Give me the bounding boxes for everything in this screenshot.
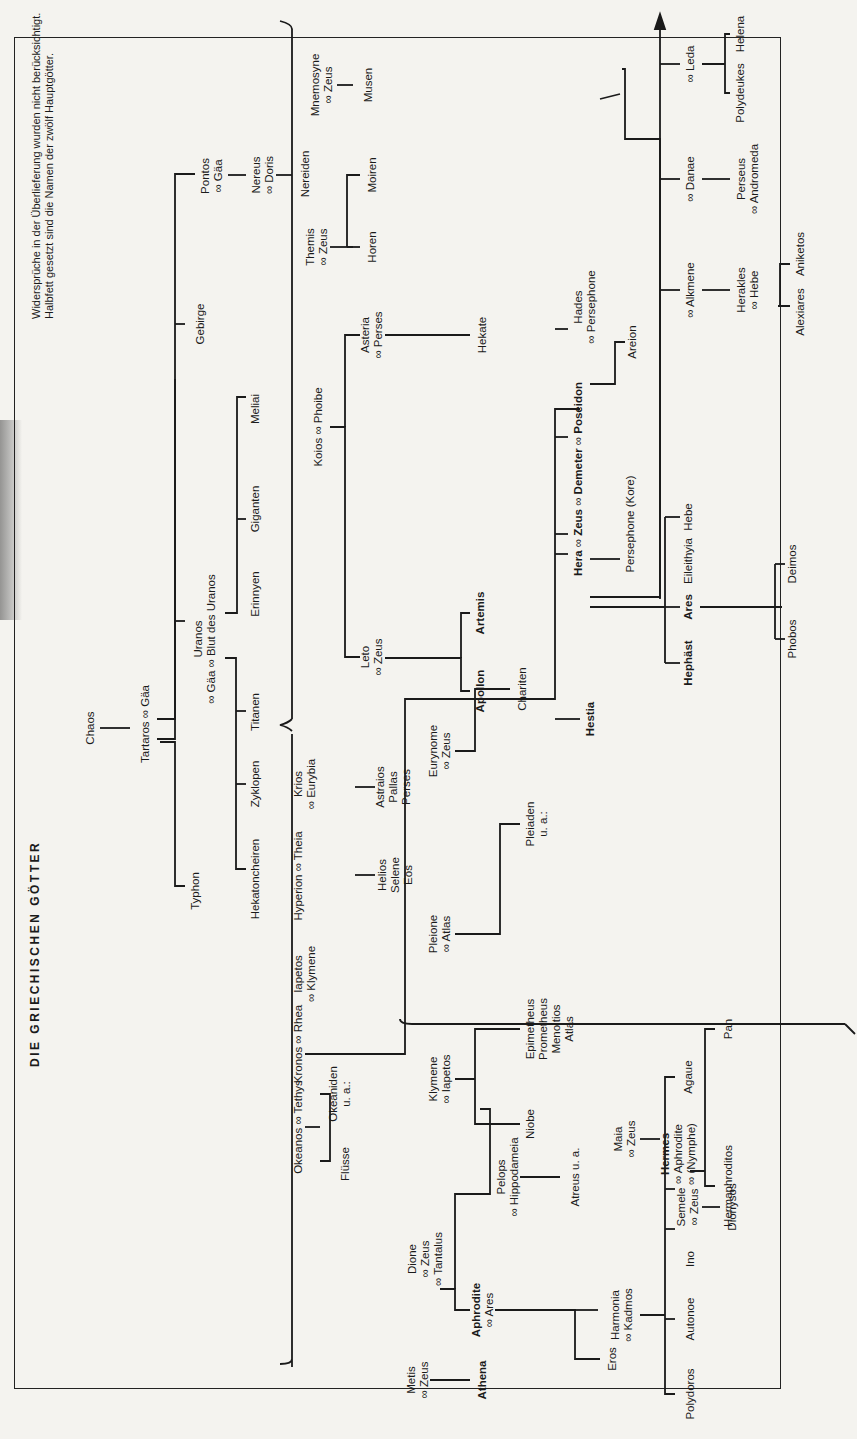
klymene-spouse: ∞ Iapetos [440, 1054, 453, 1103]
menoitios: Menoitios [550, 998, 563, 1060]
aphrodite-spouse: ∞ Ares [483, 1283, 496, 1337]
node-tartaros-gaa: Tartaros ∞ Gäa [139, 685, 152, 763]
node-hephast: Hephäst [682, 640, 695, 685]
pleiaden-ua: u. a.: [537, 802, 550, 847]
node-deimos: Deimos [786, 545, 799, 584]
node-polydeukes: Polydeukes [734, 63, 747, 122]
node-krios: Krios ∞ Eurybia [292, 759, 318, 809]
okeaniden-ua: u. a.: [340, 1066, 353, 1122]
atlas: Atlas [563, 998, 576, 1060]
perseus-name: Perseus [735, 144, 748, 214]
hermes-spouse-1: ∞ Aphrodite [672, 1123, 685, 1185]
selene: Selene [389, 857, 402, 893]
node-hyperion-theia: Hyperion ∞ Theia [292, 831, 305, 920]
node-okeanos-tethys: Okeanos ∞ Tethys [292, 1080, 305, 1174]
node-danae: ∞ Danae [684, 156, 697, 201]
harmonia-spouse: ∞ Kadmos [622, 1288, 635, 1342]
leto-spouse: ∞ Zeus [372, 639, 385, 676]
perseus-spouse: ∞ Andromeda [748, 144, 761, 214]
node-leto: Leto ∞ Zeus [359, 639, 385, 676]
node-niobe: Niobe [524, 1109, 537, 1139]
node-hestia: Hestia [584, 702, 597, 737]
node-zyklopen: Zyklopen [249, 761, 262, 808]
node-aniketos: Aniketos [794, 232, 807, 276]
node-hekatoncheiren: Hekatoncheiren [249, 839, 262, 920]
prometheus: Prometheus [537, 998, 550, 1060]
node-gebirge: Gebirge [194, 304, 207, 345]
krios-name: Krios [292, 759, 305, 809]
node-persephone-kore: Persephone (Kore) [624, 475, 637, 572]
astraios: Astraios [374, 766, 387, 808]
pleiaden-name: Pleiaden [524, 802, 537, 847]
node-themis: Themis ∞ Zeus [304, 228, 330, 266]
node-iapetos: Iapetos ∞ Klymene [292, 946, 318, 1002]
pallas: Pallas [387, 766, 400, 808]
themis-name: Themis [304, 228, 317, 266]
pleione-name: Pleione [427, 915, 440, 953]
eurynome-name: Eurynome [427, 725, 440, 777]
eos: Eos [402, 857, 415, 893]
hera: Hera [572, 550, 584, 576]
node-meliai: Meliai [249, 394, 262, 424]
dione-name: Dione [406, 1232, 419, 1286]
node-hermaphroditos: Hermaphroditos [722, 1145, 735, 1227]
hades-name: Hades [572, 270, 585, 343]
poseidon: Poseidon [572, 382, 584, 434]
node-hades: Hades ∞ Persephone [572, 270, 598, 343]
herakles-name: Herakles [735, 267, 748, 312]
node-leda: ∞ Leda [684, 46, 697, 83]
pleione-spouse: ∞ Atlas [440, 915, 453, 953]
node-erinnyen: Erinnyen [249, 571, 262, 616]
node-uranos: Uranos ∞ Gäa ∞ Blut des Uranos [192, 574, 218, 704]
node-klymene: Klymene ∞ Iapetos [427, 1054, 453, 1103]
asteria-name: Asteria [359, 311, 372, 358]
node-helios-selene-eos: Helios Selene Eos [376, 857, 415, 893]
node-moiren: Moiren [366, 157, 379, 192]
node-hebe: Hebe [682, 503, 695, 531]
node-alexiares: Alexiares [794, 288, 807, 335]
node-nereiden: Nereiden [299, 151, 312, 198]
node-chaos: Chaos [84, 711, 97, 744]
node-pontos: Pontos ∞ Gäa [199, 158, 225, 194]
node-metis: Metis ∞ Zeus [405, 1362, 431, 1399]
klymene-name: Klymene [427, 1054, 440, 1103]
node-nereus: Nereus ∞ Doris [250, 156, 276, 194]
diagram-canvas: DIE GRIECHISCHEN GÖTTER Widersprüche in … [0, 0, 857, 1439]
herakles-spouse: ∞ Hebe [748, 267, 761, 312]
node-autonoe: Autonoe [684, 1298, 697, 1341]
node-musen: Musen [362, 68, 375, 103]
maia-name: Maia [612, 1121, 625, 1158]
node-apollon: Apollon [474, 670, 487, 713]
node-athena: Athena [476, 1361, 489, 1400]
helios: Helios [376, 857, 389, 893]
node-flusse: Flüsse [339, 1147, 352, 1181]
node-alkmene: ∞ Alkmene [684, 262, 697, 318]
node-ino: Ino [684, 1251, 697, 1267]
node-herakles: Herakles ∞ Hebe [735, 267, 761, 312]
hermes-name: Hermes [659, 1123, 672, 1185]
node-phobos: Phobos [786, 619, 799, 658]
semele-spouse: ∞ Zeus [688, 1188, 701, 1227]
mnemosyne-spouse: ∞ Zeus [322, 54, 335, 117]
node-hermes: Hermes ∞ Aphrodite ∞ (Nymphe) [659, 1123, 698, 1185]
demeter: Demeter [572, 448, 584, 494]
pontos-spouse: ∞ Gäa [212, 158, 225, 194]
node-eileithyia: Eileithyia [682, 538, 695, 584]
uranos-spouse: ∞ Gäa ∞ Blut des Uranos [205, 574, 218, 704]
node-pleione: Pleione ∞ Atlas [427, 915, 453, 953]
node-kronos-rhea: Kronos ∞ Rhea [292, 1005, 305, 1084]
node-eurynome: Eurynome ∞ Zeus [427, 725, 453, 777]
node-agaue: Agaue [682, 1060, 695, 1093]
dione-spouse-2: ∞ Tantalus [432, 1232, 445, 1286]
pelops-name: Pelops [495, 1137, 508, 1216]
mnemosyne-name: Mnemosyne [309, 54, 322, 117]
aphrodite-name: Aphrodite [470, 1283, 483, 1337]
node-pleiaden: Pleiaden u. a.: [524, 802, 550, 847]
hermes-spouse-2: ∞ (Nymphe) [685, 1123, 698, 1185]
node-harmonia: Harmonia ∞ Kadmos [609, 1288, 635, 1342]
semele-name: Semele [675, 1188, 688, 1227]
perses: Perses [400, 766, 413, 808]
harmonia-name: Harmonia [609, 1288, 622, 1342]
node-artemis: Artemis [474, 592, 487, 635]
node-maia: Maia ∞ Zeus [612, 1121, 638, 1158]
